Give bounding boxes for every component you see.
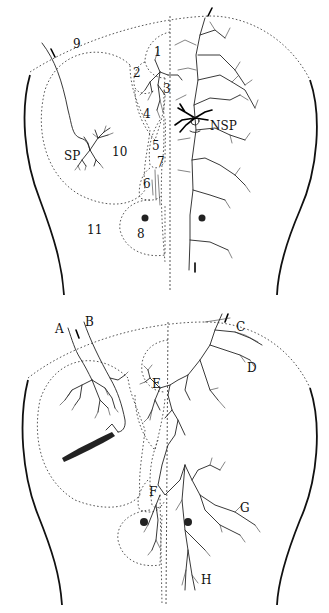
label-fiber-g: G — [240, 501, 250, 515]
midline — [166, 322, 168, 605]
right-outline — [277, 388, 317, 605]
label-region-4: 4 — [143, 107, 151, 121]
dorsal-boundary — [28, 322, 310, 388]
label-region-10: 10 — [112, 145, 127, 159]
region-8-cell-body — [142, 215, 149, 222]
right-dense-cell — [199, 215, 206, 222]
right-fine-branches — [175, 22, 258, 258]
sp-axon-arrow — [51, 49, 55, 57]
region-f-lower — [118, 510, 162, 566]
top-panel-diagram: 9 1 2 3 4 5 7 6 8 10 11 SP NSP — [0, 0, 329, 300]
f-dense-cell — [140, 518, 148, 526]
fiber-g — [185, 465, 255, 535]
nsp-arc — [190, 131, 200, 133]
sp-dendrites — [78, 128, 110, 166]
label-region-f: F — [149, 485, 157, 499]
label-region-1: 1 — [154, 45, 162, 59]
left-outline — [25, 75, 64, 295]
bottom-panel-diagram: A B C D E F G H — [0, 300, 329, 613]
label-fiber-h: H — [201, 573, 211, 587]
label-fiber-c: C — [236, 320, 245, 334]
label-fiber-d: D — [247, 361, 257, 375]
fiber-c-branches — [165, 330, 262, 435]
label-region-9: 9 — [73, 37, 81, 51]
label-region-7: 7 — [157, 155, 165, 169]
label-region-6: 6 — [143, 177, 151, 191]
label-fiber-a: A — [54, 322, 64, 336]
fiber-ab-arrow — [76, 330, 79, 338]
sp-fine-dendrites — [75, 126, 113, 170]
fiber-g-fine — [210, 458, 260, 542]
fiber-b-to-band — [106, 424, 118, 432]
nsp-dendrites — [175, 104, 212, 132]
g-dense-cell — [184, 518, 192, 526]
medial-column-boundary — [161, 78, 165, 262]
region-e-lower — [135, 395, 165, 450]
f-neuron-fine — [144, 525, 160, 555]
label-region-8: 8 — [137, 227, 145, 241]
fiber-b-terminal-band — [62, 432, 115, 462]
label-region-3: 3 — [163, 82, 171, 96]
label-sp-neuron: SP — [64, 149, 80, 163]
label-region-5: 5 — [152, 139, 160, 153]
label-region-2: 2 — [133, 66, 141, 80]
fiber-c — [158, 314, 222, 495]
label-fiber-b: B — [85, 315, 94, 329]
label-nsp-neuron: NSP — [210, 119, 237, 133]
f-neuron — [148, 495, 160, 550]
label-region-11: 11 — [87, 223, 102, 237]
right-outline — [277, 80, 317, 295]
label-region-e: E — [152, 377, 161, 391]
left-outline — [23, 380, 62, 605]
sp-axon — [42, 43, 90, 150]
lateral-lamina-boundary — [37, 361, 145, 507]
right-ascending-arrow — [208, 8, 212, 16]
right-main-tract — [189, 18, 205, 270]
fiber-a — [68, 328, 92, 380]
fiber-c-arrow — [225, 314, 228, 322]
